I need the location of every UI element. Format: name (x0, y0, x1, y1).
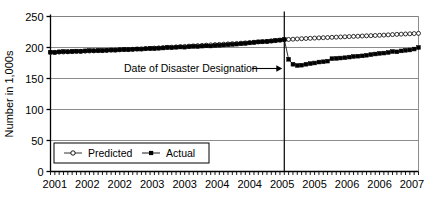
y-tick-label-200: 200 (25, 42, 43, 54)
predicted-point (365, 34, 369, 38)
y-axis-ticks: 050100150200250 (25, 11, 50, 178)
actual-point (230, 43, 234, 47)
actual-point (291, 62, 295, 66)
actual-point (200, 44, 204, 48)
predicted-point (417, 31, 421, 35)
actual-point (313, 61, 317, 65)
actual-point (157, 46, 161, 50)
actual-point (118, 48, 122, 52)
actual-point (140, 47, 144, 51)
actual-point (204, 44, 208, 48)
predicted-point (404, 32, 408, 36)
predicted-point (399, 32, 403, 36)
x-tick-label-0: 2001 (43, 178, 67, 190)
actual-point (144, 47, 148, 51)
actual-point (326, 59, 330, 63)
predicted-point (347, 35, 351, 39)
actual-point (88, 49, 92, 53)
predicted-point (386, 33, 390, 37)
actual-point (373, 52, 377, 56)
actual-point (153, 47, 157, 51)
x-tick-label-10: 2006 (367, 178, 391, 190)
actual-point (252, 41, 256, 45)
predicted-point (339, 35, 343, 39)
actual-point (196, 45, 200, 49)
actual-point (183, 45, 187, 49)
actual-point (79, 49, 83, 53)
actual-point (386, 51, 390, 55)
y-axis-title: Number in 1,000s (3, 50, 15, 137)
x-axis-labels: 2001200220022003200320042004200520052006… (43, 178, 425, 190)
predicted-point (395, 32, 399, 36)
y-tick-label-250: 250 (25, 11, 43, 23)
actual-point (417, 46, 421, 50)
actual-point (161, 46, 165, 50)
y-tick-label-100: 100 (25, 104, 43, 116)
actual-point (222, 43, 226, 47)
chart-figure: 0501001502002502001200220022003200320042… (0, 0, 435, 207)
actual-point (317, 60, 321, 64)
actual-point (122, 48, 126, 52)
x-tick-label-5: 2004 (205, 178, 229, 190)
actual-point (127, 48, 131, 52)
actual-point (217, 43, 221, 47)
actual-point (395, 50, 399, 54)
actual-point (174, 45, 178, 49)
actual-point (404, 48, 408, 52)
annotation-arrow-head-icon (276, 65, 282, 71)
actual-point (70, 49, 74, 53)
predicted-point (326, 36, 330, 40)
actual-point (109, 48, 113, 52)
actual-point (105, 48, 109, 52)
actual-point (321, 60, 325, 64)
x-tick-label-3: 2003 (140, 178, 164, 190)
x-tick-label-6: 2004 (237, 178, 261, 190)
x-tick-label-2: 2002 (108, 178, 132, 190)
actual-point (235, 42, 239, 46)
actual-point (256, 40, 260, 44)
actual-point (226, 43, 230, 47)
actual-point (178, 45, 182, 49)
actual-point (356, 54, 360, 58)
predicted-point (313, 36, 317, 40)
predicted-point (321, 36, 325, 40)
actual-point (352, 55, 356, 59)
y-tick-label-50: 50 (31, 135, 43, 147)
y-tick-label-0: 0 (37, 166, 43, 178)
actual-point (300, 63, 304, 67)
actual-point (274, 39, 278, 43)
y-tick-label-150: 150 (25, 73, 43, 85)
actual-point (165, 46, 169, 50)
x-tick-label-1: 2002 (75, 178, 99, 190)
actual-point (101, 49, 105, 53)
predicted-point (291, 37, 295, 41)
predicted-point (412, 32, 416, 36)
actual-point (330, 57, 334, 61)
actual-point (170, 46, 174, 50)
predicted-point (300, 37, 304, 41)
disaster-designation-annotation: Date of Disaster Designation (124, 62, 282, 74)
y-axis-title-text: Number in 1,000s (3, 50, 15, 137)
actual-point (343, 56, 347, 60)
actual-point (114, 48, 118, 52)
predicted-point (308, 36, 312, 40)
predicted-point (334, 35, 338, 39)
actual-point (382, 51, 386, 55)
actual-point (53, 51, 57, 55)
actual-point (243, 42, 247, 46)
x-tick-label-11: 2007 (400, 178, 424, 190)
actual-point (96, 49, 100, 53)
legend-label-predicted: Predicted (88, 147, 133, 159)
predicted-point (317, 36, 321, 40)
actual-point (391, 50, 395, 54)
actual-point (57, 50, 61, 54)
actual-point (62, 50, 66, 54)
actual-point (360, 54, 364, 58)
actual-point (83, 49, 87, 53)
actual-point (261, 40, 265, 44)
predicted-point (369, 34, 373, 38)
actual-point (148, 47, 152, 51)
actual-point (269, 39, 273, 43)
predicted-point (295, 37, 299, 41)
actual-point (75, 49, 79, 53)
